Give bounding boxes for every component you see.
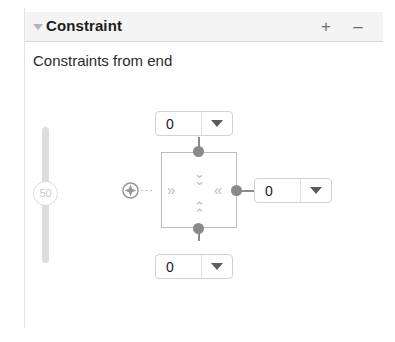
add-constraint-button[interactable]: + — [315, 16, 337, 38]
disclosure-triangle-down-icon[interactable] — [33, 24, 43, 30]
slider-value-label: 50 — [34, 182, 57, 205]
dotted-connector: ··· — [140, 189, 160, 192]
anchor-nub-bottom[interactable] — [193, 223, 204, 234]
constraint-field-right-value[interactable]: 0 — [255, 179, 300, 202]
anchor-nub-right[interactable] — [231, 185, 242, 196]
anchor-nub-top[interactable] — [193, 146, 204, 157]
constraint-field-bottom-value[interactable]: 0 — [156, 255, 201, 278]
inner-arrow-top-icon[interactable]: ⌄⌄ — [189, 170, 209, 184]
chevron-down-icon[interactable] — [201, 112, 232, 135]
pane-left-divider — [24, 8, 25, 328]
constraint-field-top[interactable]: 0 — [155, 111, 233, 136]
constraint-field-top-value[interactable]: 0 — [156, 112, 201, 135]
slider-knob[interactable]: 50 — [33, 181, 58, 206]
inner-arrow-left-icon[interactable]: » — [167, 182, 173, 197]
constraint-field-bottom[interactable]: 0 — [155, 254, 233, 279]
constraints-from-end-label: Constraints from end — [33, 52, 172, 69]
constraint-inspector-panel: Constraint + – Constraints from end 50 ⌄… — [0, 0, 395, 342]
inner-arrow-right-icon[interactable]: « — [214, 182, 220, 197]
remove-constraint-button[interactable]: – — [347, 16, 369, 38]
page-title: Constraint — [46, 17, 122, 34]
constraint-section-header[interactable]: Constraint + – — [25, 12, 383, 42]
chevron-down-icon[interactable] — [300, 179, 331, 202]
priority-slider[interactable]: 50 — [39, 127, 51, 263]
move-plus-circle-icon[interactable] — [122, 182, 139, 199]
inner-arrow-bottom-icon[interactable]: ⌃⌃ — [189, 203, 209, 217]
connector-right — [240, 190, 254, 192]
chevron-down-icon[interactable] — [201, 255, 232, 278]
constraint-field-right[interactable]: 0 — [254, 178, 332, 203]
